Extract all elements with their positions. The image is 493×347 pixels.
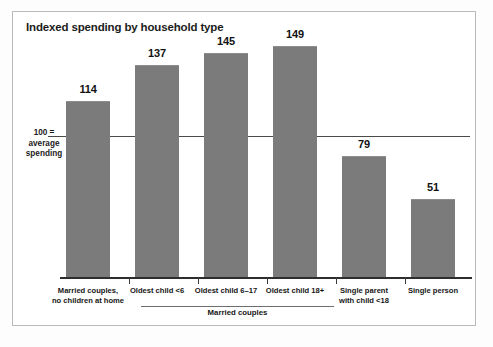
chart-figure: Indexed spending by household type 100 =…: [0, 0, 493, 347]
axis-tick: [129, 277, 130, 284]
reference-line-100: [60, 136, 470, 137]
bar-rect[interactable]: [411, 199, 455, 278]
bar-value-label: 79: [342, 138, 386, 150]
bar-value-label: 145: [204, 35, 248, 47]
category-label-line: Single person: [381, 286, 485, 296]
axis-tick: [336, 277, 337, 284]
category-label-line: with child <18: [312, 296, 416, 306]
axis-tick: [198, 277, 199, 284]
bar-value-label: 51: [411, 181, 455, 193]
bar-value-label: 137: [135, 47, 179, 59]
x-axis-category-label: Single person: [381, 286, 485, 296]
bar-value-label: 114: [66, 83, 110, 95]
bar-rect[interactable]: [135, 65, 179, 278]
group-bracket-line: [141, 306, 334, 307]
x-axis-line: [60, 277, 472, 279]
plot-area: 114 137 145 149 79 51: [60, 30, 470, 278]
axis-tick: [267, 277, 268, 284]
bar-value-label: 149: [273, 28, 317, 40]
group-bracket-label: Married couples: [141, 308, 334, 317]
bar-rect[interactable]: [342, 156, 386, 278]
category-label-line: no children at home: [36, 296, 140, 306]
axis-tick: [405, 277, 406, 284]
bar-rect[interactable]: [204, 53, 248, 278]
bar-rect[interactable]: [273, 46, 317, 278]
bar-rect[interactable]: [66, 101, 110, 278]
